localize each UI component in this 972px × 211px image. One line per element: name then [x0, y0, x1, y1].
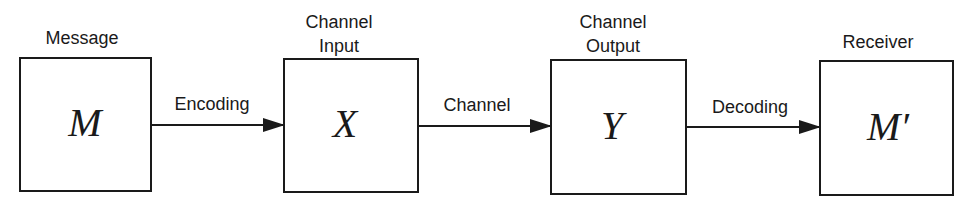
channel-output-symbol: Y [601, 103, 627, 148]
channel-input-label-line1: Channel [305, 12, 372, 32]
channel-input-symbol: X [331, 101, 359, 146]
decoding-label: Decoding [712, 97, 788, 117]
channel-output-block: Channel Output Y [551, 12, 686, 194]
decoding-arrow: Decoding [686, 97, 820, 127]
receiver-symbol: M′ [866, 104, 910, 149]
channel-arrow: Channel [418, 95, 551, 126]
channel-output-label-line2: Output [586, 36, 640, 56]
message-block: Message M [20, 28, 151, 191]
channel-input-block: Channel Input X [284, 12, 418, 192]
message-symbol: M [67, 100, 104, 145]
channel-output-label-line1: Channel [579, 12, 646, 32]
channel-input-label-line2: Input [319, 36, 359, 56]
message-label: Message [45, 28, 118, 48]
encoding-arrow: Encoding [151, 94, 284, 125]
receiver-label: Receiver [842, 32, 913, 52]
channel-label: Channel [443, 95, 510, 115]
channel-diagram: Message M Encoding Channel Input X Chann… [0, 0, 972, 211]
receiver-block: Receiver M′ [820, 32, 953, 195]
encoding-label: Encoding [174, 94, 249, 114]
